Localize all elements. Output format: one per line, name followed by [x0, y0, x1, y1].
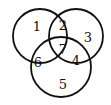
region-label-2: 2 — [59, 19, 67, 32]
region-label-6: 6 — [34, 56, 42, 69]
region-label-7: 7 — [59, 43, 67, 56]
region-label-1: 1 — [33, 20, 41, 33]
venn-diagram — [0, 0, 111, 105]
region-label-5: 5 — [59, 78, 67, 91]
region-label-3: 3 — [84, 31, 92, 44]
region-label-4: 4 — [72, 54, 80, 67]
